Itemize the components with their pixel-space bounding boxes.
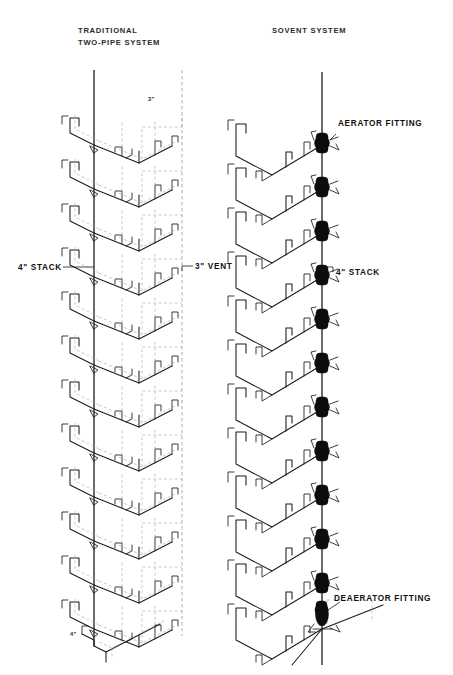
aerator-fitting	[311, 219, 339, 241]
deaerator-fitting-label: DEAERATOR FITTING	[334, 594, 431, 603]
aerator-fitting	[311, 263, 339, 285]
left-floor-module	[62, 554, 182, 603]
left-floor-module	[62, 334, 182, 383]
left-floor-module	[62, 246, 182, 295]
deaerator-leader	[328, 602, 340, 610]
right-base-drain	[292, 600, 383, 665]
deaerator-fitting	[308, 602, 340, 632]
aerator-fitting	[311, 307, 339, 329]
left-floor-module	[62, 422, 182, 471]
left-floor-module	[62, 466, 182, 515]
left-floor-module	[62, 598, 182, 647]
aerator-fitting	[311, 175, 339, 197]
left-floor-module	[62, 158, 182, 207]
right-floor-module	[228, 120, 322, 181]
aerator-fitting	[311, 527, 339, 549]
left-floor-module	[62, 114, 182, 163]
aerator-fitting	[311, 351, 339, 373]
left-floor-module	[62, 202, 182, 251]
left-floor-module	[62, 510, 182, 559]
left-stack-size-callout: 4"	[70, 631, 76, 637]
aerator-fitting	[311, 131, 339, 153]
sovent-system-drawing: AERATOR FITTING 4" STACK DEAERATOR FITTI…	[228, 72, 431, 665]
left-vent-size-callout: 3"	[148, 96, 154, 102]
diagram-page: TRADITIONAL TWO-PIPE SYSTEM SOVENT SYSTE…	[0, 0, 453, 675]
left-vent-label: 3" VENT	[195, 262, 232, 271]
aerator-fitting	[311, 483, 339, 505]
left-floor-module	[62, 290, 182, 339]
left-title-line-1: TRADITIONAL	[78, 26, 138, 35]
aerator-fitting-label: AERATOR FITTING	[338, 119, 422, 128]
left-floor-module	[62, 378, 182, 427]
right-stack-label: 4" STACK	[336, 268, 380, 277]
traditional-two-pipe-system-drawing: 4" STACK 3" VENT 3" 4"	[18, 70, 232, 662]
right-title: SOVENT SYSTEM	[272, 26, 346, 35]
plumbing-comparison-diagram: TRADITIONAL TWO-PIPE SYSTEM SOVENT SYSTE…	[0, 0, 453, 675]
left-floor-modules	[62, 114, 182, 647]
left-stack-label: 4" STACK	[18, 263, 62, 272]
aerator-fitting	[311, 395, 339, 417]
aerator-fitting	[311, 571, 339, 593]
aerator-fitting	[311, 439, 339, 461]
right-floor-modules	[228, 120, 322, 665]
left-title-line-2: TWO-PIPE SYSTEM	[78, 38, 160, 47]
left-vent-leader	[182, 266, 193, 271]
